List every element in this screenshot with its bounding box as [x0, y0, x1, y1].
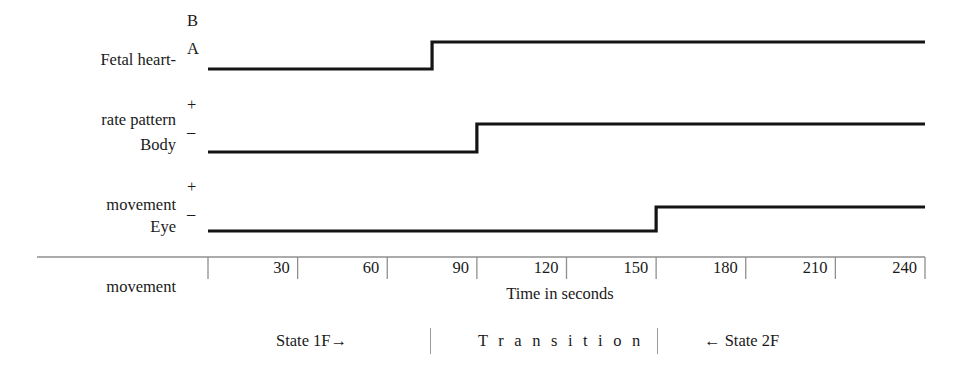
state-divider-left [430, 328, 431, 354]
axis-tick-label-240: 240 [859, 259, 917, 277]
axis-tick-label-210: 210 [769, 259, 827, 277]
trace-eye-movement [208, 207, 925, 231]
state-label-transition: T r a n s i t i o n [478, 331, 643, 351]
axis-tick-label-90: 90 [411, 259, 469, 277]
axis-tick-label-120: 120 [501, 259, 559, 277]
state-label-2f: ← State 2F [704, 331, 779, 351]
axis-tick-label-180: 180 [680, 259, 738, 277]
trace-fetal-heart-rate-pattern [208, 42, 925, 69]
trace-body-movement [208, 124, 925, 152]
axis-title-time: Time in seconds [460, 285, 660, 303]
state-divider-right [657, 328, 658, 354]
axis-tick-label-30: 30 [232, 259, 290, 277]
chart-plot-area [0, 0, 967, 378]
axis-tick-label-150: 150 [590, 259, 648, 277]
state-label-1f: State 1F→ [276, 331, 347, 351]
figure-fetal-state-transition: Fetal heart- rate pattern B A Body movem… [0, 0, 967, 378]
axis-tick-label-60: 60 [321, 259, 379, 277]
